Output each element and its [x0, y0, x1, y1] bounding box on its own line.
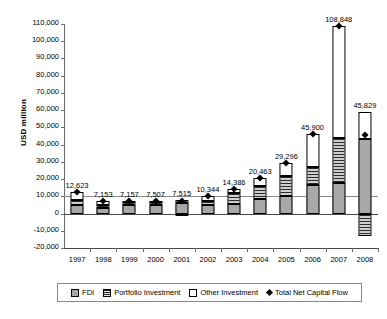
bar-segment-fdi[interactable]: [254, 199, 267, 213]
bar-value-label: 45,900: [301, 123, 324, 132]
y-axis-tick-label: 30,000: [36, 156, 59, 165]
bar-value-label: 14,386: [223, 178, 246, 187]
x-tick-mark: [378, 248, 379, 252]
bar-value-label: 20,463: [249, 167, 272, 176]
bar-segment-portfolio-investment[interactable]: [332, 138, 345, 183]
legend-item-fdi: FDI: [71, 288, 94, 297]
y-axis-tick-label: 70,000: [36, 87, 59, 96]
x-tick-mark: [195, 248, 196, 252]
bar-value-label: 12,623: [66, 181, 89, 190]
x-axis-tick-label: 2006: [304, 255, 321, 264]
chart-legend: FDI Portfolio Investment Other Investmen…: [57, 283, 362, 302]
bar-value-label: 29,296: [275, 152, 298, 161]
bar-group[interactable]: 14,386: [221, 24, 247, 248]
y-axis-tick-label: 80,000: [36, 70, 59, 79]
bar-group[interactable]: 7,515: [169, 24, 195, 248]
legend-item-portfolio-investment: Portfolio Investment: [103, 288, 180, 297]
chart-container: USD million 110,000100,00090,00080,00070…: [0, 0, 387, 319]
bar-segment-portfolio-investment[interactable]: [254, 186, 267, 199]
x-tick-mark: [221, 248, 222, 252]
y-axis-tick-label: 100,000: [32, 35, 59, 44]
bar-group[interactable]: 45,900: [300, 24, 326, 248]
bar-segment-other-investment[interactable]: [332, 26, 345, 138]
bar-group[interactable]: 7,157: [116, 24, 142, 248]
bar-group[interactable]: 12,623: [64, 24, 90, 248]
x-axis-tick-label: 1999: [121, 255, 138, 264]
fdi-swatch-icon: [71, 289, 79, 297]
bar-segment-portfolio-investment[interactable]: [358, 214, 371, 236]
bar-segment-portfolio-investment[interactable]: [280, 176, 293, 196]
x-tick-mark: [273, 248, 274, 252]
bar-series-layer: 12,6237,1537,1577,5077,51510,34414,38620…: [64, 24, 378, 248]
x-tick-mark: [116, 248, 117, 252]
bar-value-label: 7,507: [146, 190, 165, 199]
bar-value-label: 7,515: [172, 189, 191, 198]
y-axis-tick-label: 60,000: [36, 104, 59, 113]
bar-segment-other-investment[interactable]: [306, 134, 319, 167]
y-axis-tick-label: 40,000: [36, 139, 59, 148]
bar-value-label: 10,344: [196, 185, 219, 194]
bar-value-label: 7,157: [120, 190, 139, 199]
bar-segment-fdi[interactable]: [123, 205, 136, 213]
bar-group[interactable]: 29,296: [273, 24, 299, 248]
legend-item-other-investment: Other Investment: [189, 288, 258, 297]
plot-area: 110,000100,00090,00080,00070,00060,00050…: [64, 24, 378, 248]
legend-label-fdi: FDI: [82, 288, 94, 297]
diamond-marker-icon: [266, 289, 273, 296]
y-axis-tick-label: 0: [55, 208, 59, 217]
bar-segment-fdi[interactable]: [228, 204, 241, 213]
y-axis-tick-label: 110,000: [32, 18, 59, 27]
legend-label-portfolio-investment: Portfolio Investment: [114, 288, 180, 297]
y-axis-tick-label: 20,000: [36, 173, 59, 182]
bar-segment-portfolio-investment[interactable]: [71, 200, 84, 204]
bar-segment-portfolio-investment[interactable]: [201, 201, 214, 205]
bar-segment-fdi[interactable]: [201, 205, 214, 214]
bar-value-label: 108,848: [325, 15, 352, 24]
x-axis-labels: 1997199819992000200120022003200420052006…: [64, 255, 378, 267]
x-axis-tick-label: 2004: [252, 255, 269, 264]
y-axis-tick-label: 10,000: [36, 190, 59, 199]
x-tick-mark: [300, 248, 301, 252]
bar-value-label: 7,153: [94, 190, 113, 199]
x-axis-tick-label: 2002: [200, 255, 217, 264]
x-tick-mark: [90, 248, 91, 252]
bar-segment-fdi[interactable]: [358, 139, 371, 213]
bar-group[interactable]: 7,507: [143, 24, 169, 248]
bar-segment-fdi[interactable]: [306, 185, 319, 213]
x-axis-tick-label: 2001: [173, 255, 190, 264]
y-axis-tick-label: 50,000: [36, 121, 59, 130]
bar-segment-portfolio-investment[interactable]: [306, 167, 319, 185]
bar-segment-other-investment[interactable]: [175, 214, 188, 216]
bar-segment-portfolio-investment[interactable]: [228, 193, 241, 204]
x-axis-tick-label: 1998: [95, 255, 112, 264]
bar-segment-fdi[interactable]: [97, 208, 110, 214]
bar-group[interactable]: 45,829: [352, 24, 378, 248]
other-swatch-icon: [189, 289, 197, 297]
bar-segment-fdi[interactable]: [332, 183, 345, 214]
bar-segment-fdi[interactable]: [71, 205, 84, 214]
bar-segment-fdi[interactable]: [280, 196, 293, 214]
bar-group[interactable]: 20,463: [247, 24, 273, 248]
y-axis-tick-label: -20,000: [34, 242, 59, 251]
bar-group[interactable]: 10,344: [195, 24, 221, 248]
x-axis-tick-label: 1997: [69, 255, 86, 264]
legend-item-total-net-capital-flow: Total Net Capital Flow: [267, 288, 348, 297]
x-tick-mark: [143, 248, 144, 252]
legend-label-total-net-capital-flow: Total Net Capital Flow: [275, 288, 348, 297]
x-axis-tick-label: 2000: [147, 255, 164, 264]
x-axis-tick-label: 2003: [226, 255, 243, 264]
x-axis-tick-label: 2008: [357, 255, 374, 264]
x-axis-tick-label: 2007: [330, 255, 347, 264]
bar-group[interactable]: 108,848: [326, 24, 352, 248]
x-axis-ticks: [64, 248, 378, 252]
bar-segment-fdi[interactable]: [149, 205, 162, 213]
bar-segment-portfolio-investment[interactable]: [97, 205, 110, 208]
y-axis-tick-label: 90,000: [36, 52, 59, 61]
portfolio-swatch-icon: [103, 289, 111, 297]
bar-group[interactable]: 7,153: [90, 24, 116, 248]
x-axis-tick-label: 2005: [278, 255, 295, 264]
x-tick-mark: [326, 248, 327, 252]
x-tick-mark: [169, 248, 170, 252]
y-axis-title: USD million: [19, 68, 28, 178]
x-tick-mark: [352, 248, 353, 252]
